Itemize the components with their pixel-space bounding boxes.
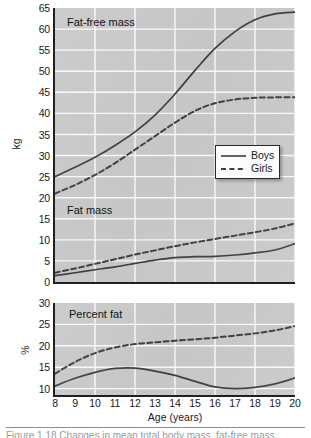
legend-item-girls: Girls <box>220 162 274 175</box>
caption-divider <box>6 427 305 428</box>
x-tick-14: 14 <box>164 398 186 409</box>
legend-item-boys: Boys <box>220 149 274 162</box>
y-tick-top-35: 35 <box>22 130 50 141</box>
y-axis-title-bottom: % <box>19 339 31 361</box>
legend-key-solid <box>220 151 247 161</box>
x-tick-12: 12 <box>124 398 146 409</box>
y-tick-top-55: 55 <box>22 45 50 56</box>
y-tick-top-30: 30 <box>22 151 50 162</box>
y-tick-top-5: 5 <box>22 256 50 267</box>
y-tick-top-10: 10 <box>22 235 50 246</box>
y-tick-top-40: 40 <box>22 108 50 119</box>
y-tick-bottom-15: 15 <box>22 362 50 373</box>
figure-body-composition: Fat-free mass Fat mass Boys Girls 051015… <box>0 0 311 438</box>
y-tick-top-15: 15 <box>22 214 50 225</box>
y-tick-top-50: 50 <box>22 66 50 77</box>
y-tick-top-60: 60 <box>22 24 50 35</box>
y-tick-top-0: 0 <box>22 277 50 288</box>
panel-percent-fat: Percent fat <box>55 303 295 395</box>
x-tick-15: 15 <box>184 398 206 409</box>
y-tick-bottom-10: 10 <box>22 384 50 395</box>
y-tick-top-20: 20 <box>22 193 50 204</box>
x-tick-17: 17 <box>224 398 246 409</box>
x-tick-18: 18 <box>244 398 266 409</box>
legend-label-boys: Boys <box>251 150 274 161</box>
legend: Boys Girls <box>215 145 280 179</box>
x-tick-16: 16 <box>204 398 226 409</box>
y-tick-top-65: 65 <box>22 3 50 14</box>
x-tick-8: 8 <box>44 398 66 409</box>
x-axis-title: Age (years) <box>55 411 295 423</box>
figure-caption: Figure 1.18 Changes in mean total body m… <box>6 430 305 438</box>
x-tick-11: 11 <box>104 398 126 409</box>
y-axis-title-top: kg <box>10 133 22 155</box>
y-axis-line-top <box>53 8 55 284</box>
x-tick-9: 9 <box>64 398 86 409</box>
y-tick-bottom-25: 25 <box>22 319 50 330</box>
annotation-fat-mass: Fat mass <box>67 204 112 216</box>
x-tick-10: 10 <box>84 398 106 409</box>
y-tick-top-45: 45 <box>22 87 50 98</box>
x-tick-20: 20 <box>284 398 306 409</box>
y-tick-bottom-30: 30 <box>22 298 50 309</box>
x-tick-19: 19 <box>264 398 286 409</box>
panel-fat-free-and-fat-mass: Fat-free mass Fat mass Boys Girls <box>55 8 295 282</box>
annotation-percent-fat: Percent fat <box>69 308 122 320</box>
x-tick-13: 13 <box>144 398 166 409</box>
x-axis-line-top <box>53 282 295 284</box>
legend-key-dashed <box>220 164 247 174</box>
y-axis-line-bottom <box>53 303 55 397</box>
annotation-fat-free-mass: Fat-free mass <box>67 16 135 28</box>
legend-label-girls: Girls <box>251 163 273 174</box>
y-tick-top-25: 25 <box>22 172 50 183</box>
